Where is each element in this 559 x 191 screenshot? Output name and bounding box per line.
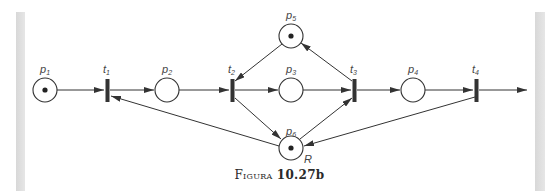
transition-t1 (106, 79, 110, 102)
label-t2: t2 (228, 63, 235, 76)
place-p2 (155, 78, 179, 102)
caption-word: Figura (234, 168, 272, 182)
places (33, 24, 425, 160)
transition-t4 (475, 79, 479, 102)
token-p6 (288, 145, 293, 150)
arc-t2-p6 (235, 98, 281, 139)
label-p3: p3 (285, 63, 296, 76)
label-t4: t4 (472, 63, 479, 76)
place-p3 (279, 78, 303, 102)
label-p2: p2 (161, 63, 172, 76)
transition-t2 (231, 79, 235, 102)
label-t1: t1 (103, 63, 110, 76)
place-p4 (401, 78, 425, 102)
arc-t4-p6 (304, 97, 475, 146)
arc-p5-t2 (235, 44, 282, 81)
label-t3: t3 (350, 63, 357, 76)
token-p5 (288, 33, 293, 38)
label-p6: p6 (285, 125, 296, 138)
arc-t3-p5 (301, 43, 352, 81)
transition-t3 (353, 79, 357, 102)
arc-p6-t1 (111, 96, 279, 146)
token-p1 (42, 87, 47, 92)
caption-number: 10.27b (277, 168, 325, 182)
label-resource-r: R (304, 153, 312, 165)
petri-net-diagram: p1 p2 p3 p4 p5 p6 R t1 t2 t3 t4 (0, 0, 559, 191)
arc-p6-t3 (300, 98, 352, 139)
label-p5: p5 (285, 9, 296, 22)
label-p4: p4 (407, 63, 418, 76)
label-p1: p1 (39, 63, 50, 76)
figure-caption: Figura 10.27b (0, 168, 559, 182)
